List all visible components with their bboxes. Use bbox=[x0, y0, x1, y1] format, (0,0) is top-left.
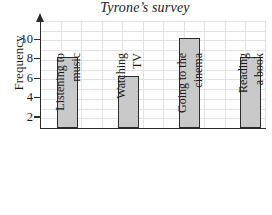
y-tick-label: 6 bbox=[3, 72, 33, 85]
gridline-v bbox=[225, 21, 226, 128]
x-category-label-listening-to-music: Listening to music bbox=[52, 53, 86, 133]
y-tick-mark bbox=[34, 78, 40, 79]
gridline-h bbox=[40, 21, 265, 22]
chart-figure: Tyrone’s survey Frequency bbox=[0, 0, 272, 215]
x-category-line: TV bbox=[129, 53, 145, 133]
gridline-h bbox=[40, 50, 265, 51]
y-tick-labels: 10 8 6 4 2 bbox=[0, 0, 33, 215]
y-tick-mark bbox=[34, 58, 40, 59]
y-tick-mark bbox=[34, 39, 40, 40]
x-category-line: Reading bbox=[235, 53, 251, 133]
gridline-v bbox=[102, 21, 103, 128]
x-category-label-going-to-the-cinema: Going to the cinema bbox=[174, 53, 208, 133]
x-category-line: Listening to bbox=[52, 53, 68, 133]
gridline-h bbox=[40, 31, 265, 32]
y-tick-label: 10 bbox=[3, 33, 33, 46]
gridline-h bbox=[40, 40, 265, 41]
y-tick-mark bbox=[34, 97, 40, 98]
gridline-v bbox=[163, 21, 164, 128]
x-category-label-watching-tv: Watching TV bbox=[113, 53, 147, 133]
y-tick-label: 4 bbox=[3, 91, 33, 104]
y-axis-arrow-icon bbox=[36, 13, 44, 22]
x-category-line: cinema bbox=[190, 53, 206, 133]
x-category-line: music bbox=[68, 53, 84, 133]
x-category-label-reading-a-book: Reading a book bbox=[235, 53, 269, 133]
y-tick-label: 2 bbox=[3, 111, 33, 124]
y-tick-label: 8 bbox=[3, 52, 33, 65]
x-category-line: Watching bbox=[113, 53, 129, 133]
y-axis-line bbox=[40, 21, 41, 129]
y-tick-mark bbox=[34, 116, 40, 117]
x-category-line: Going to the bbox=[174, 53, 190, 133]
x-category-line: a book bbox=[251, 53, 267, 133]
